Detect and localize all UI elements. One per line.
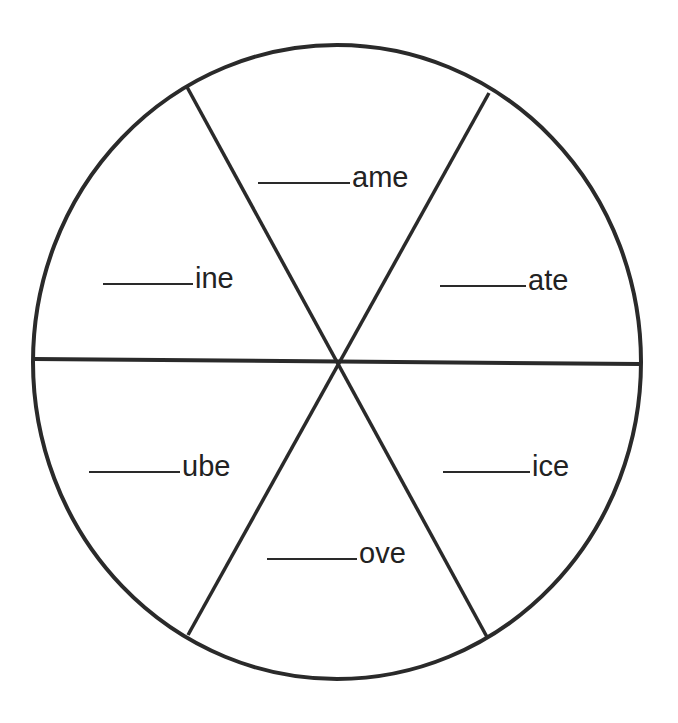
answer-blank-ame[interactable] [258,182,350,184]
section-lower-left: ube [89,449,230,483]
word-wheel-diagram [0,0,678,723]
answer-blank-ove[interactable] [267,558,357,560]
section-lower-right: ice [443,449,569,483]
section-upper-left: ine [103,261,234,295]
word-ending-ame: ame [352,160,408,194]
answer-blank-ine[interactable] [103,283,193,285]
answer-blank-ate[interactable] [440,285,526,287]
word-ending-ine: ine [195,261,234,295]
word-ending-ate: ate [528,263,568,297]
word-wheel-worksheet: ame ate ice ove ube ine [0,0,678,723]
word-ending-ube: ube [182,449,230,483]
word-ending-ove: ove [359,536,406,570]
section-upper-right: ate [440,263,568,297]
section-bottom: ove [267,536,406,570]
section-top: ame [258,160,408,194]
answer-blank-ice[interactable] [443,471,530,473]
answer-blank-ube[interactable] [89,471,180,473]
word-ending-ice: ice [532,449,569,483]
